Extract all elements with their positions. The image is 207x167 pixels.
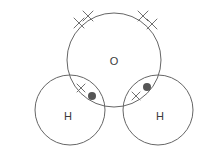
atom-shells [35, 13, 193, 145]
oxygen-label: O [110, 55, 119, 67]
bond-pair-right-dot [143, 83, 151, 91]
hydrogen-left-label: H [64, 110, 72, 122]
hydrogen-right-label: H [156, 110, 164, 122]
lone-pair-top-right [138, 11, 157, 29]
dot-and-cross-diagram: O H H [0, 0, 207, 167]
bond-pair-right [132, 83, 151, 100]
bond-pair-left-cross [77, 84, 85, 92]
molecule-canvas: O H H [0, 0, 207, 167]
bond-pair-left-dot [88, 92, 96, 100]
bond-pair-right-cross [132, 92, 140, 100]
